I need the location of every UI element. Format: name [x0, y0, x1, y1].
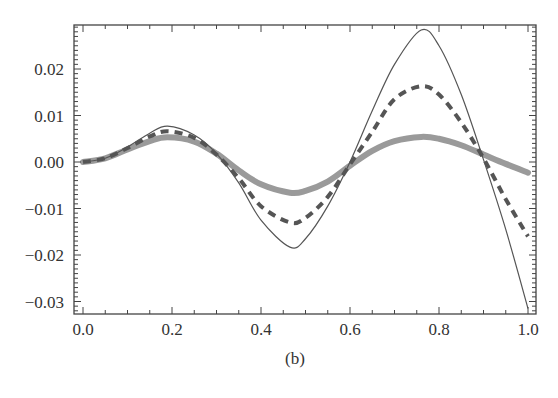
y-tick-label: −0.02 — [25, 246, 64, 265]
x-tick-label: 1.0 — [517, 320, 538, 339]
x-tick-label: 0.0 — [72, 320, 93, 339]
y-tick-label: −0.01 — [25, 200, 64, 219]
plot-curves — [83, 29, 528, 308]
line-chart: 0.00.20.40.60.81.0 0.020.010.00−0.01−0.0… — [0, 0, 558, 398]
series-thin-solid — [83, 29, 528, 308]
x-tick-label: 0.8 — [428, 320, 449, 339]
x-tick-label: 0.6 — [339, 320, 360, 339]
y-tick-label: 0.02 — [34, 60, 64, 79]
y-tick-label: 0.00 — [34, 153, 64, 172]
x-tick-label: 0.2 — [161, 320, 182, 339]
y-tick-label: −0.03 — [25, 293, 64, 312]
axis-ticks — [74, 25, 536, 314]
series-dashed — [83, 86, 528, 236]
series-thick-gray — [83, 137, 528, 193]
x-tick-label: 0.4 — [250, 320, 272, 339]
x-axis-tick-labels: 0.00.20.40.60.81.0 — [72, 320, 538, 339]
figure-caption: (b) — [285, 349, 305, 368]
y-axis-tick-labels: 0.020.010.00−0.01−0.02−0.03 — [25, 60, 64, 312]
y-tick-label: 0.01 — [34, 107, 64, 126]
plot-frame — [74, 25, 536, 314]
